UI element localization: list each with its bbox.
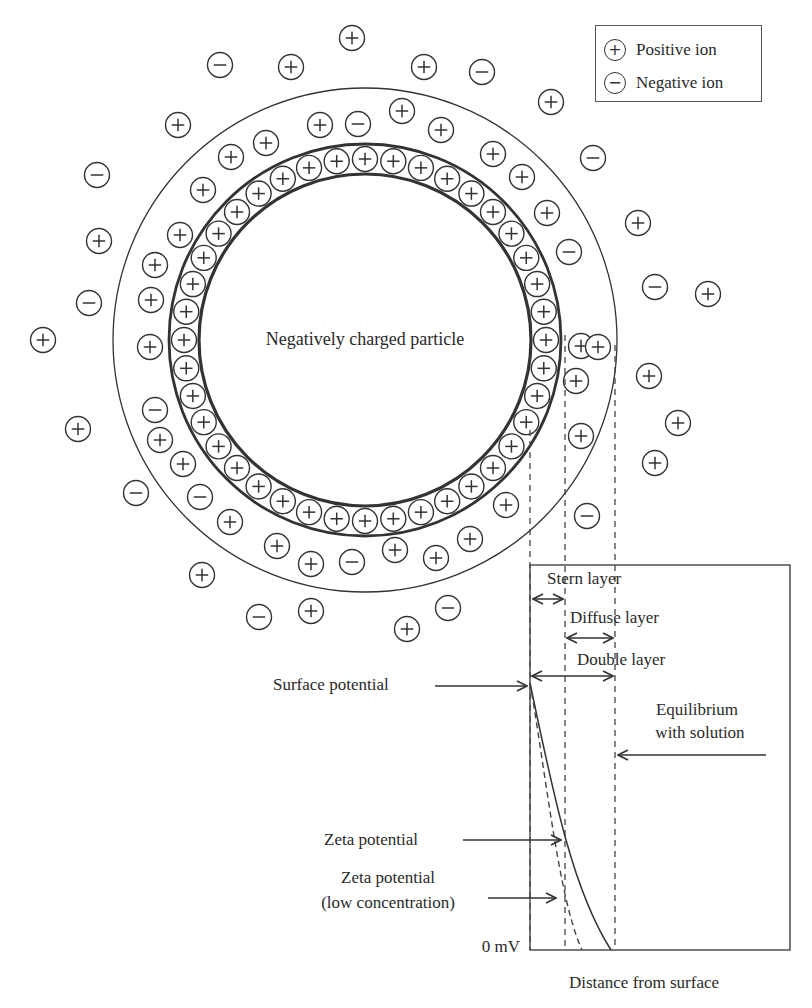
positive-ion-icon bbox=[539, 90, 564, 115]
positive-ion-icon bbox=[696, 282, 721, 307]
negative-ion-icon bbox=[346, 112, 371, 137]
positive-ion-icon bbox=[459, 181, 484, 206]
diffuse-layer-label: Diffuse layer bbox=[570, 608, 659, 627]
positive-ion-icon: + bbox=[604, 39, 626, 61]
negative-ion-icon bbox=[643, 275, 668, 300]
potential-graph-frame bbox=[530, 565, 790, 950]
positive-ion-icon bbox=[143, 253, 168, 278]
positive-ion-icon bbox=[435, 166, 460, 191]
positive-ion-icon bbox=[299, 552, 324, 577]
equilibrium-label-line2: with solution bbox=[655, 723, 745, 742]
positive-ion-icon bbox=[246, 474, 271, 499]
positive-ion-icon bbox=[381, 149, 406, 174]
positive-ion-icon bbox=[324, 506, 349, 531]
positive-ion-icon bbox=[531, 299, 556, 324]
negative-ion-icon bbox=[124, 481, 149, 506]
positive-ion-icon bbox=[254, 131, 279, 156]
positive-ion-icon bbox=[481, 142, 506, 167]
surface-potential-label: Surface potential bbox=[273, 675, 389, 694]
positive-ion-icon bbox=[480, 200, 505, 225]
positive-ion-icon bbox=[191, 410, 216, 435]
positive-ion-icon bbox=[353, 509, 378, 534]
negative-ion-icon bbox=[188, 485, 213, 510]
positive-ion-icon bbox=[525, 383, 550, 408]
positive-ion-icon bbox=[494, 493, 519, 518]
positive-ion-icon bbox=[381, 506, 406, 531]
legend-label-positive: Positive ion bbox=[636, 40, 717, 60]
positive-ion-icon bbox=[408, 500, 433, 525]
positive-ion-icon bbox=[139, 288, 164, 313]
positive-ion-icon bbox=[180, 272, 205, 297]
zeta-low-label-line1: Zeta potential bbox=[341, 868, 435, 887]
positive-ion-icon bbox=[308, 113, 333, 138]
positive-ion-icon bbox=[87, 229, 112, 254]
legend-item-positive: + Positive ion bbox=[604, 37, 717, 63]
zeta-low-label-line2: (low concentration) bbox=[321, 893, 455, 912]
positive-ion-icon bbox=[190, 563, 215, 588]
legend: + Positive ion − Negative ion bbox=[595, 25, 762, 102]
positive-ion-icon bbox=[191, 178, 216, 203]
positive-ion-icon bbox=[219, 145, 244, 170]
positive-ion-icon bbox=[637, 364, 662, 389]
positive-ion-icon bbox=[138, 335, 163, 360]
stern-layer-label: Stern layer bbox=[547, 569, 621, 588]
positive-ion-icon bbox=[390, 99, 415, 124]
positive-ion-icon bbox=[246, 181, 271, 206]
positive-ion-icon bbox=[626, 211, 651, 236]
positive-ion-icon bbox=[31, 328, 56, 353]
legend-label-negative: Negative ion bbox=[636, 73, 723, 93]
positive-ion-icon bbox=[459, 474, 484, 499]
positive-ion-icon bbox=[499, 434, 524, 459]
positive-ion-icon bbox=[225, 200, 250, 225]
positive-ion-icon bbox=[514, 245, 539, 270]
double-layer-label: Double layer bbox=[577, 650, 666, 669]
positive-ion-icon bbox=[148, 428, 173, 453]
zeta-potential-label: Zeta potential bbox=[324, 830, 418, 849]
positive-ion-icon bbox=[340, 26, 365, 51]
positive-ion-icon bbox=[191, 245, 216, 270]
negative-ion-icon bbox=[575, 504, 600, 529]
positive-ion-icon bbox=[480, 455, 505, 480]
positive-ion-icon bbox=[531, 356, 556, 381]
positive-ion-icon bbox=[499, 221, 524, 246]
equilibrium-label-line1: Equilibrium bbox=[656, 700, 738, 719]
positive-ion-icon bbox=[168, 223, 193, 248]
positive-ion-icon bbox=[180, 383, 205, 408]
positive-ion-icon bbox=[435, 489, 460, 514]
positive-ion-icon bbox=[270, 489, 295, 514]
positive-ion-icon bbox=[586, 335, 611, 360]
negative-ion-icon bbox=[143, 398, 168, 423]
potential-curve bbox=[530, 683, 611, 950]
negative-ion-icon bbox=[581, 146, 606, 171]
zero-mv-label: 0 mV bbox=[482, 937, 521, 956]
positive-ion-icon bbox=[265, 534, 290, 559]
legend-item-negative: − Negative ion bbox=[604, 70, 723, 96]
positive-ion-icon bbox=[324, 149, 349, 174]
positive-ion-icon bbox=[408, 155, 433, 180]
negative-ion-icon bbox=[247, 605, 272, 630]
positive-ion-icon bbox=[514, 410, 539, 435]
positive-ion-icon bbox=[564, 369, 589, 394]
double-layer-diagram: Negatively charged particle Stern layer … bbox=[0, 0, 812, 1008]
positive-ion-icon bbox=[666, 411, 691, 436]
positive-ion-icon bbox=[206, 221, 231, 246]
positive-ion-icon bbox=[534, 328, 559, 353]
negative-ion-icon: − bbox=[604, 72, 626, 94]
positive-ion-icon bbox=[643, 451, 668, 476]
positive-ion-icon bbox=[66, 417, 91, 442]
positive-ion-icon bbox=[535, 201, 560, 226]
positive-ion-icon bbox=[569, 424, 594, 449]
positive-ion-icon bbox=[270, 166, 295, 191]
positive-ion-icon bbox=[412, 55, 437, 80]
positive-ion-icon bbox=[353, 147, 378, 172]
positive-ion-icon bbox=[297, 500, 322, 525]
positive-ion-icon bbox=[166, 113, 191, 138]
negative-ion-icon bbox=[85, 163, 110, 188]
positive-ion-icon bbox=[424, 546, 449, 571]
positive-ion-icon bbox=[297, 155, 322, 180]
positive-ion-icon bbox=[172, 328, 197, 353]
positive-ion-icon bbox=[279, 55, 304, 80]
negative-ion-icon bbox=[557, 240, 582, 265]
positive-ion-icon bbox=[171, 452, 196, 477]
positive-ion-icon bbox=[174, 356, 199, 381]
